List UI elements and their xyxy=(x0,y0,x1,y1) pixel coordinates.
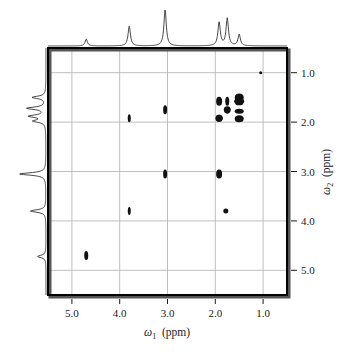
x-axis-ticks: 5.04.03.02.01.0 xyxy=(65,299,270,319)
x-tick-label: 5.0 xyxy=(65,307,79,319)
cross-peak xyxy=(216,97,222,106)
cross-peak xyxy=(216,169,222,178)
x-axis-omega: ω xyxy=(144,326,152,338)
spectrum-canvas: 5.04.03.02.01.0 1.02.03.04.05.0 ω1 (ppm)… xyxy=(0,0,344,355)
x-tick-label: 4.0 xyxy=(113,307,127,319)
nmr-figure: 5.04.03.02.01.0 1.02.03.04.05.0 ω1 (ppm)… xyxy=(0,0,344,355)
diagonal-peak xyxy=(163,169,167,178)
y-axis-title: ω2 (ppm) xyxy=(320,149,335,195)
x-tick-label: 2.0 xyxy=(208,307,222,319)
cross-peak xyxy=(234,97,244,105)
y-tick-label: 1.0 xyxy=(301,67,315,79)
x-axis-title: ω1 (ppm) xyxy=(144,326,190,341)
cross-peak xyxy=(128,114,131,122)
cross-peak xyxy=(235,109,244,114)
y-tick-label: 5.0 xyxy=(301,264,315,276)
f1-projection-trace xyxy=(48,10,287,46)
y-tick-label: 3.0 xyxy=(301,166,315,178)
x-axis-units: (ppm) xyxy=(156,326,190,339)
y-tick-label: 4.0 xyxy=(301,215,315,227)
x-tick-label: 3.0 xyxy=(161,307,175,319)
x-tick-label: 1.0 xyxy=(256,307,270,319)
y-axis-ticks: 1.02.03.04.05.0 xyxy=(291,67,315,277)
cross-peak xyxy=(225,109,229,114)
cross-peak xyxy=(163,105,167,114)
cross-peak xyxy=(223,209,228,214)
cross-peak xyxy=(225,97,229,106)
diagonal-peak xyxy=(84,251,88,260)
diagonal-peak xyxy=(128,207,131,215)
y-axis-omega: ω xyxy=(320,187,332,195)
cross-peak xyxy=(216,115,223,122)
y-axis-units: (ppm) xyxy=(320,149,333,183)
y-tick-label: 2.0 xyxy=(301,116,315,128)
diagonal-peak xyxy=(259,71,262,74)
f2-projection-trace xyxy=(20,48,46,295)
cross-peak xyxy=(235,115,244,122)
